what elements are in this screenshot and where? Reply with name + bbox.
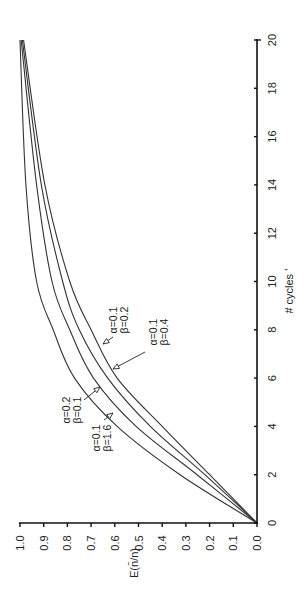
- cycles-tick-label: 12: [266, 227, 278, 239]
- annotation-beta: β=0.1: [71, 396, 83, 423]
- arrowhead-icon: [103, 339, 109, 344]
- series-curve-3: [22, 40, 257, 523]
- e-tick-label: 0.7: [85, 535, 97, 550]
- annotation-beta: β=0.2: [118, 306, 130, 333]
- cycles-tick-label: 4: [266, 423, 278, 429]
- e-tick-label: 0.6: [109, 535, 121, 550]
- cycles-tick-label: 2: [266, 472, 278, 478]
- series-curve-1: [20, 40, 257, 523]
- e-tick-label: 1.0: [14, 535, 26, 550]
- x-axis-title: # cycles ': [283, 269, 295, 314]
- cycles-tick-label: 8: [266, 327, 278, 333]
- annotation-2: α=0.1β=1.6: [90, 413, 113, 451]
- rotated-line-chart: 02468101214161820# cycles '0.00.10.20.30…: [0, 0, 306, 612]
- annotation-beta: β=1.6: [101, 424, 113, 451]
- y-axis-title: E(n̄/n): [128, 548, 140, 578]
- series-curve-2: [21, 40, 257, 523]
- cycles-tick-label: 16: [266, 130, 278, 142]
- cycles-tick-label: 0: [266, 520, 278, 526]
- arrowhead-icon: [113, 364, 119, 369]
- cycles-tick-label: 10: [266, 275, 278, 287]
- cycles-tick-label: 6: [266, 375, 278, 381]
- annotation-3: α=0.1β=0.2: [103, 306, 130, 344]
- curves: [20, 40, 257, 523]
- cycles-tick-label: 18: [266, 82, 278, 94]
- axes: 02468101214161820# cycles '0.00.10.20.30…: [14, 34, 295, 578]
- e-tick-label: 0.2: [204, 535, 216, 550]
- e-tick-label: 0.1: [227, 535, 239, 550]
- cycles-tick-label: 14: [266, 179, 278, 191]
- e-tick-label: 0.8: [61, 535, 73, 550]
- cycles-tick-label: 20: [266, 34, 278, 46]
- e-tick-label: 0.4: [156, 535, 168, 550]
- e-tick-label: 0.9: [38, 535, 50, 550]
- e-tick-label: 0.0: [251, 535, 263, 550]
- e-tick-label: 0.3: [180, 535, 192, 550]
- annotation-1: α=0.2β=0.1: [60, 387, 100, 423]
- series-curve-4: [24, 40, 257, 523]
- annotation-beta: β=0.4: [158, 318, 170, 345]
